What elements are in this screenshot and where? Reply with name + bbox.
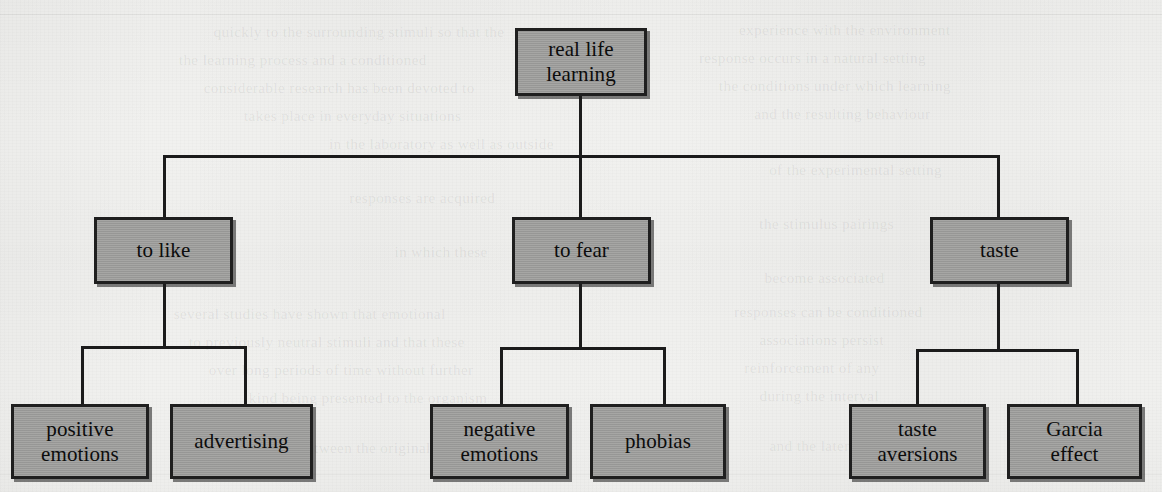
bleedthrough-line: the conditions under which learning — [719, 78, 951, 95]
node-garcia-effect[interactable]: Garcia effect — [1007, 404, 1142, 479]
diagram-page: quickly to the surrounding stimuli so th… — [0, 0, 1162, 492]
connector-to-fear-bus — [500, 347, 666, 350]
bleedthrough-line: the stimulus pairings — [759, 216, 894, 233]
bleedthrough-line: considerable research has been devoted t… — [204, 80, 475, 97]
connector-garcia-effect-drop — [1076, 349, 1079, 406]
bleedthrough-line: reinforcement of any — [744, 360, 879, 377]
node-taste[interactable]: taste — [930, 217, 1069, 284]
connector-taste-stem — [997, 283, 1000, 351]
connector-taste-drop — [997, 155, 1000, 217]
node-taste-aversions[interactable]: taste aversions — [849, 404, 986, 479]
bleedthrough-line: associations persist — [759, 332, 884, 349]
bleedthrough-line: become associated — [764, 270, 884, 287]
node-label: to fear — [548, 238, 615, 263]
bleedthrough-line: in which these — [395, 244, 488, 261]
bleedthrough-line: during the interval — [759, 388, 879, 405]
node-to-fear[interactable]: to fear — [512, 217, 651, 284]
connector-phobias-drop — [663, 347, 666, 406]
node-label: phobias — [619, 429, 697, 454]
connector-to-like-drop — [163, 155, 166, 217]
connector-negative-emotions-drop — [500, 347, 503, 406]
scan-rule-top — [0, 14, 1162, 15]
connector-to-fear-stem — [579, 283, 582, 349]
bleedthrough-line: responses are acquired — [349, 190, 495, 207]
bleedthrough-line: quickly to the surrounding stimuli so th… — [214, 24, 505, 41]
node-label: to like — [131, 238, 197, 263]
bleedthrough-line: the learning process and a conditioned — [179, 52, 427, 69]
node-label: positive emotions — [35, 417, 125, 467]
connector-advertising-drop — [244, 346, 247, 406]
node-label: Garcia effect — [1040, 417, 1109, 467]
connector-to-like-bus — [81, 346, 247, 349]
connector-taste-bus — [916, 349, 1079, 352]
node-label: taste — [974, 238, 1025, 263]
node-positive-emotions[interactable]: positive emotions — [11, 404, 149, 479]
bleedthrough-line: response occurs in a natural setting — [699, 50, 926, 67]
bleedthrough-line: in the laboratory as well as outside — [329, 136, 554, 153]
node-to-like[interactable]: to like — [94, 217, 233, 284]
bleedthrough-line: several studies have shown that emotiona… — [174, 306, 446, 323]
connector-root-stem — [579, 95, 582, 157]
node-label: negative emotions — [455, 417, 545, 467]
connector-to-fear-drop — [579, 155, 582, 217]
node-negative-emotions[interactable]: negative emotions — [430, 404, 569, 479]
bleedthrough-line: and the resulting behaviour — [754, 106, 930, 123]
node-label: real life learning — [540, 37, 622, 87]
connector-taste-aversions-drop — [916, 349, 919, 406]
node-label: advertising — [188, 429, 294, 454]
bleedthrough-line: takes place in everyday situations — [244, 108, 461, 125]
bleedthrough-line: responses can be conditioned — [734, 304, 922, 321]
node-phobias[interactable]: phobias — [590, 404, 726, 479]
connector-positive-emotions-drop — [81, 346, 84, 406]
node-real-life-learning[interactable]: real life learning — [515, 28, 647, 96]
connector-to-like-stem — [163, 283, 166, 348]
bleedthrough-line: over long periods of time without furthe… — [209, 362, 474, 379]
node-label: taste aversions — [871, 417, 963, 467]
node-advertising[interactable]: advertising — [170, 404, 313, 479]
bleedthrough-line: of the experimental setting — [769, 162, 942, 179]
bleedthrough-line: experience with the environment — [739, 22, 951, 39]
